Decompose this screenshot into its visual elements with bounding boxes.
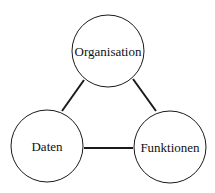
- node-label-organisation: Organisation: [75, 44, 142, 59]
- edge-organisation-funktionen: [133, 79, 156, 111]
- node-daten: Daten: [11, 110, 83, 182]
- node-organisation: Organisation: [72, 15, 144, 87]
- node-label-daten: Daten: [31, 139, 63, 154]
- edge-organisation-daten: [62, 80, 84, 111]
- triangle-diagram: Organisation Daten Funktionen: [0, 0, 215, 193]
- node-funktionen: Funktionen: [134, 111, 206, 183]
- node-label-funktionen: Funktionen: [140, 140, 200, 155]
